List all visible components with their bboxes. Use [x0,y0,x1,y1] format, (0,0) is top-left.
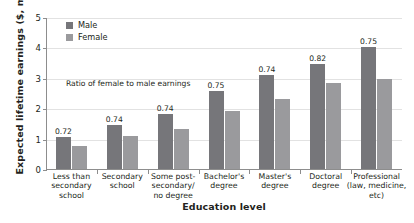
y-tick-label: 5 [36,13,41,23]
x-axis-line [46,169,402,170]
legend-label-male: Male [78,20,97,30]
bar-group [259,18,290,169]
bar-female[interactable] [72,146,87,169]
x-tick-label: Professional(law, medicine,etc) [344,172,409,200]
bar-female[interactable] [275,99,290,169]
bar-female[interactable] [377,79,392,169]
y-tick-label: 3 [36,74,41,84]
ratio-annotation: Ratio of female to male earnings [66,79,190,88]
legend-swatch-female-icon [66,34,73,41]
bar-male[interactable] [209,91,224,169]
legend-item-female: Female [66,32,108,42]
bar-male[interactable] [310,64,325,169]
bar-male[interactable] [107,125,122,169]
y-tick-mark [43,140,47,141]
bar-male[interactable] [158,114,173,169]
bar-male[interactable] [361,47,376,169]
y-axis-line [46,18,47,170]
y-tick-mark [43,79,47,80]
bar-female[interactable] [326,83,341,169]
ratio-data-label: 0.74 [106,115,123,124]
ratio-data-label: 0.82 [309,54,326,63]
ratio-data-label: 0.74 [258,65,275,74]
y-tick-mark [43,170,47,171]
bar-group [310,18,341,169]
bar-chart: Expected lifetime earnings ($, millions)… [0,0,414,223]
legend-item-male: Male [66,20,108,30]
bar-female[interactable] [225,111,240,169]
y-axis-title: Expected lifetime earnings ($, millions) [14,5,25,175]
y-tick-mark [43,48,47,49]
legend-swatch-male-icon [66,22,73,29]
bar-male[interactable] [259,75,274,169]
bar-female[interactable] [123,136,138,169]
ratio-data-label: 0.72 [55,127,72,136]
bar-group [158,18,189,169]
y-tick-label: 1 [36,135,41,145]
y-tick-mark [43,109,47,110]
bar-group [209,18,240,169]
legend: Male Female [66,20,108,44]
bar-female[interactable] [174,129,189,169]
legend-label-female: Female [78,32,108,42]
x-axis-title: Education level [46,201,402,212]
ratio-data-label: 0.74 [157,104,174,113]
y-tick-label: 4 [36,43,41,53]
y-tick-mark [43,18,47,19]
ratio-data-label: 0.75 [360,37,377,46]
bar-group [107,18,138,169]
ratio-data-label: 0.75 [208,81,225,90]
x-axis-tick-labels: Less thansecondaryschoolSecondaryschoolS… [46,172,402,202]
y-tick-label: 2 [36,104,41,114]
bar-male[interactable] [56,137,71,169]
